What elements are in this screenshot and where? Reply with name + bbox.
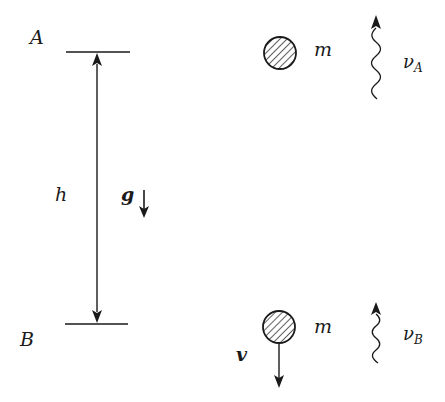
photon-a-label: νA <box>403 51 423 75</box>
mass-a-label: m <box>314 38 332 60</box>
gravity-label: g <box>121 183 134 205</box>
photon-b-label: νB <box>403 323 423 347</box>
mass-b-ball <box>263 311 295 343</box>
gravitational-redshift-diagram: A B h g m νA m v νB <box>0 0 445 402</box>
height-double-arrow <box>92 53 102 323</box>
level-a-label: A <box>28 26 44 48</box>
height-label: h <box>55 183 67 205</box>
photon-a-wavy-arrow-icon <box>371 15 381 99</box>
level-b-label: B <box>19 328 34 350</box>
velocity-label: v <box>236 343 248 365</box>
mass-a-ball <box>264 37 296 69</box>
photon-b-wavy-arrow-icon <box>371 302 381 363</box>
gravity-arrow-icon <box>139 190 149 218</box>
mass-b-label: m <box>314 315 332 337</box>
velocity-arrow-icon <box>274 343 284 388</box>
